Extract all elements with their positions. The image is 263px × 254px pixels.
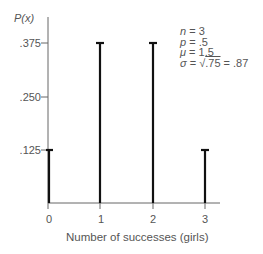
x-tick-label-2: 2 [143, 213, 163, 225]
stat-sigma-radicand: .75 [205, 57, 220, 69]
x-tick-label-1: 1 [91, 213, 111, 225]
y-tick-label-125: .125 [20, 144, 41, 156]
y-tick-label-375: .375 [20, 37, 41, 49]
y-axis-label: P(x) [14, 12, 34, 24]
x-tick-label-0: 0 [39, 213, 59, 225]
stat-sigma-result: = .87 [221, 57, 249, 69]
x-axis-label: Number of successes (girls) [66, 231, 209, 243]
y-tick-label-250: .250 [20, 91, 41, 103]
stat-sigma: σ = √.75 = .87 [180, 58, 248, 69]
stats-annotation: n = 3 p = .5 μ = 1.5 σ = √.75 = .87 [180, 26, 248, 68]
stat-sigma-eq: = √ [187, 57, 206, 69]
stat-sigma-symbol: σ [180, 57, 187, 69]
x-tick-label-3: 3 [195, 213, 215, 225]
